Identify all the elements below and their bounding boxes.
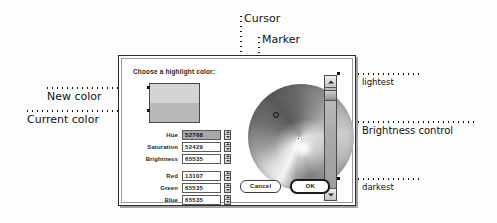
- leader-endpoint-tick: [147, 86, 150, 89]
- label-blue: Blue: [128, 197, 182, 203]
- label-saturation: Saturation: [128, 144, 182, 150]
- input-green[interactable]: 65535: [182, 183, 221, 193]
- ok-button[interactable]: OK: [290, 179, 330, 194]
- input-red[interactable]: 13107: [182, 171, 221, 181]
- hsb-field-group: Hue 52768 Saturation 52429: [128, 129, 250, 164]
- leader-endpoint-tick: [147, 109, 150, 112]
- stepper-brightness[interactable]: [224, 154, 231, 164]
- field-row-saturation: Saturation 52429: [128, 141, 250, 152]
- field-row-brightness: Brightness 65535: [128, 153, 250, 164]
- swatch-current-color[interactable]: [150, 103, 199, 122]
- field-row-red: Red 13107: [128, 170, 250, 181]
- stepper-hue[interactable]: [224, 130, 231, 140]
- color-wheel[interactable]: [248, 84, 354, 190]
- stepper-blue[interactable]: [224, 195, 231, 205]
- label-brightness: Brightness: [128, 156, 182, 162]
- triangle-down-icon[interactable]: [225, 146, 230, 151]
- field-row-green: Green 65535: [128, 182, 250, 193]
- leader-endpoint-tick: [337, 177, 340, 180]
- triangle-down-icon[interactable]: [225, 158, 230, 163]
- annotation-current-color-label: Current color: [27, 113, 99, 126]
- annotation-brightness-control-label: Brightness control: [362, 125, 453, 136]
- leader-endpoint-tick: [337, 72, 340, 75]
- annotation-new-color-label: New color: [47, 90, 102, 103]
- label-green: Green: [128, 185, 182, 191]
- dialog-button-row: Cancel OK: [240, 179, 330, 194]
- annotation-cursor-label: Cursor: [244, 12, 280, 25]
- rgb-field-group: Red 13107 Green 65535: [128, 170, 250, 205]
- dialog-inner-frame: Choose a highlight color: Hue 52768: [121, 58, 353, 203]
- dialog-title: Choose a highlight color:: [133, 68, 215, 75]
- stepper-green[interactable]: [224, 183, 231, 193]
- triangle-down-icon[interactable]: [225, 134, 230, 139]
- brightness-slider-track[interactable]: [325, 88, 336, 188]
- input-saturation[interactable]: 52429: [182, 142, 221, 152]
- stepper-red[interactable]: [224, 171, 231, 181]
- field-row-blue: Blue 65535: [128, 194, 250, 205]
- label-red: Red: [128, 173, 182, 179]
- swatch-new-color[interactable]: [150, 84, 199, 103]
- input-brightness[interactable]: 65535: [182, 154, 221, 164]
- field-row-hue: Hue 52768: [128, 129, 250, 140]
- label-hue: Hue: [128, 132, 182, 138]
- annotation-darkest-label: darkest: [362, 182, 394, 192]
- annotation-marker-label: Marker: [262, 33, 300, 46]
- brightness-slider-thumb[interactable]: [325, 90, 336, 101]
- stepper-saturation[interactable]: [224, 142, 231, 152]
- annotation-lightest-label: lightest: [362, 77, 394, 87]
- cancel-button[interactable]: Cancel: [240, 180, 281, 193]
- square-marker-icon[interactable]: [297, 137, 300, 140]
- ring-cursor-icon[interactable]: [273, 112, 279, 118]
- input-hue[interactable]: 52768: [182, 130, 221, 140]
- color-swatch[interactable]: [149, 83, 200, 123]
- color-picker-dialog: Choose a highlight color: Hue 52768: [118, 55, 356, 206]
- triangle-down-icon[interactable]: [225, 187, 230, 192]
- annotation-brightness-control-leader: [341, 121, 478, 123]
- color-value-fields: Hue 52768 Saturation 52429: [128, 129, 250, 211]
- triangle-down-icon[interactable]: [225, 199, 230, 204]
- triangle-up-icon[interactable]: [325, 76, 336, 88]
- color-wheel-edge-shading: [248, 84, 354, 190]
- screenshot-canvas: Cursor Marker New color Current color li…: [0, 0, 497, 223]
- input-blue[interactable]: 65535: [182, 195, 221, 205]
- triangle-down-icon[interactable]: [225, 175, 230, 180]
